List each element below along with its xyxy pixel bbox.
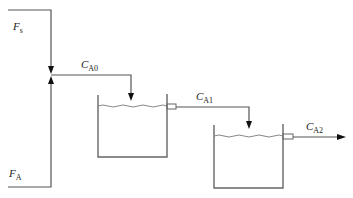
solvent-feed-label: Fs xyxy=(12,20,23,35)
tank-2-outlet-stream: CA2 xyxy=(293,120,346,140)
reactant-feed-stream: FA xyxy=(8,76,54,187)
inlet-stream: CA0 xyxy=(51,58,134,101)
solvent-feed-stream: Fs xyxy=(8,10,54,74)
tank-2-concentration-label: CA2 xyxy=(306,120,323,135)
arrow-right-icon xyxy=(337,134,346,140)
inlet-concentration-label: CA0 xyxy=(81,58,98,73)
tank-1-outlet-nozzle xyxy=(167,104,176,109)
tank-1-liquid-level xyxy=(98,105,167,107)
figure-caption: FIGURE 5.10 xyxy=(8,196,67,198)
reactant-feed-label: FA xyxy=(8,167,22,182)
arrow-down-icon xyxy=(246,121,252,129)
process-flow-diagram: Fs FA CA0 CA1 CA2 FIGURE 5.10 xyxy=(0,0,353,198)
tank-2-outlet-nozzle xyxy=(283,134,293,139)
arrow-down-icon xyxy=(128,93,134,101)
tank-1-concentration-label: CA1 xyxy=(196,90,213,105)
tank-1 xyxy=(98,94,176,157)
arrow-up-icon xyxy=(48,76,54,84)
tank-2 xyxy=(214,124,293,188)
tank-2-liquid-level xyxy=(214,135,283,137)
tank-1-outlet-stream: CA1 xyxy=(176,90,252,129)
arrow-down-icon xyxy=(48,66,54,74)
